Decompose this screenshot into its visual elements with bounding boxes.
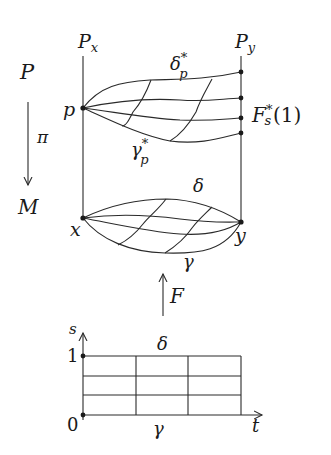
base-curve-delta: [83, 199, 241, 222]
parameter-square: [83, 333, 262, 420]
square-delta-label: δ: [157, 333, 168, 354]
homotopy-map-label: F: [169, 284, 185, 308]
base-curve-2: [83, 215, 241, 222]
base-curve-3: [83, 218, 241, 234]
base-point-y-label: y: [234, 224, 246, 246]
t-axis-label: t: [252, 415, 260, 436]
lifted-cross-curve-2: [170, 79, 212, 141]
base-label: M: [17, 195, 39, 219]
s-one-point: [81, 354, 86, 359]
s-axis-label: s: [69, 320, 77, 338]
lifted-curve-delta: [83, 72, 241, 108]
base-point-x: [80, 215, 85, 220]
fiber-py-label: Py: [234, 30, 256, 55]
lifted-cross-curve-1: [122, 80, 151, 126]
base-cross-curve-2: [165, 207, 212, 253]
bundle-label: P: [19, 60, 35, 84]
s-zero-label: 0: [67, 414, 78, 435]
base-curve-gamma: [83, 218, 241, 253]
endpoint-1: [239, 70, 244, 75]
endpoint-2: [239, 96, 244, 101]
upper-delta-label: δ*p: [170, 50, 188, 81]
s-one-label: 1: [67, 345, 78, 366]
base-delta-label: δ: [193, 175, 204, 196]
origin-point: [81, 413, 86, 418]
lift-point-p: [80, 105, 85, 110]
upper-gamma-label: γ*p: [131, 136, 149, 167]
base-point-x-label: x: [70, 218, 81, 240]
homotopy-lift-diagram: Px Py P π M p δ*p γ*p F*s(1) x y δ γ F: [0, 0, 331, 455]
lifted-curve-gamma: [83, 108, 241, 142]
endpoint-family-label: F*s(1): [251, 102, 301, 128]
base-gamma-label: γ: [183, 251, 194, 272]
base-cross-curve-1: [118, 199, 166, 245]
base-homotopy: [83, 199, 241, 253]
endpoint-4: [239, 131, 244, 136]
lifted-curve-2: [83, 98, 241, 108]
projection-label: π: [36, 127, 49, 147]
lift-point-label: p: [63, 98, 75, 120]
endpoint-3: [239, 116, 244, 121]
lifted-curve-family: [83, 72, 241, 142]
fiber-px-label: Px: [77, 30, 99, 55]
square-gamma-label: γ: [153, 418, 164, 439]
